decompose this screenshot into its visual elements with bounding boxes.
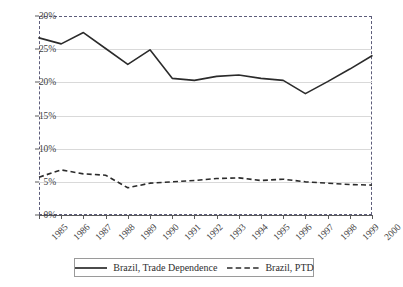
y-axis-tick-label: 5% — [44, 177, 56, 187]
x-axis-tick-mark — [128, 215, 129, 219]
y-axis-tick-mark — [35, 49, 39, 50]
legend-dashed-line-icon — [226, 264, 260, 272]
legend-entry-trade-dependence: Brazil, Trade Dependence — [74, 262, 217, 273]
x-axis-tick-mark — [350, 215, 351, 219]
x-axis-tick-label: 1991 — [183, 222, 203, 242]
x-axis-tick-mark — [150, 215, 151, 219]
y-axis-tick-label: 20% — [39, 77, 56, 87]
x-axis-tick-label: 1989 — [138, 222, 158, 242]
chart-legend: Brazil, Trade Dependence Brazil, PTD — [74, 258, 314, 277]
x-axis-tick-label: 1999 — [360, 222, 380, 242]
x-axis-tick-mark — [83, 215, 84, 219]
x-axis-tick-label: 1998 — [338, 222, 358, 242]
x-axis-tick-label: 1994 — [249, 222, 269, 242]
x-axis-tick-mark — [172, 215, 173, 219]
y-axis-tick-label: 10% — [39, 144, 56, 154]
gridline — [39, 116, 372, 117]
x-axis-tick-mark — [372, 215, 373, 219]
gridline — [39, 149, 372, 150]
x-axis-tick-mark — [61, 215, 62, 219]
x-axis-tick-label: 1995 — [271, 222, 291, 242]
y-axis-tick-mark — [35, 115, 39, 116]
gridline — [39, 182, 372, 183]
x-axis-tick-mark — [305, 215, 306, 219]
x-axis-tick-label: 1993 — [227, 222, 247, 242]
x-axis-line — [39, 215, 372, 216]
x-axis-tick-mark — [217, 215, 218, 219]
legend-label-ptd: Brazil, PTD — [265, 262, 313, 273]
y-axis-tick-mark — [35, 82, 39, 83]
x-axis-tick-mark — [261, 215, 262, 219]
x-axis-tick-label: 1987 — [94, 222, 114, 242]
x-axis-tick-mark — [194, 215, 195, 219]
x-axis-tick-label: 1990 — [160, 222, 180, 242]
x-axis-tick-label: 2000 — [382, 222, 402, 242]
y-axis-tick-mark — [35, 16, 39, 17]
y-axis-tick-label: 30% — [39, 11, 56, 21]
legend-solid-line-icon — [74, 264, 108, 272]
x-axis-tick-mark — [106, 215, 107, 219]
x-axis-tick-mark — [39, 215, 40, 219]
y-axis-tick-mark — [35, 148, 39, 149]
x-axis-tick-mark — [328, 215, 329, 219]
x-axis-tick-label: 1996 — [294, 222, 314, 242]
y-axis-tick-label: 25% — [39, 44, 56, 54]
y-axis-tick-label: 15% — [39, 111, 56, 121]
x-axis-tick-label: 1985 — [49, 222, 69, 242]
x-axis-tick-label: 1986 — [72, 222, 92, 242]
x-axis-tick-label: 1997 — [316, 222, 336, 242]
x-axis-tick-mark — [239, 215, 240, 219]
gridline — [39, 82, 372, 83]
x-axis-tick-label: 1988 — [116, 222, 136, 242]
legend-label-trade-dependence: Brazil, Trade Dependence — [113, 262, 217, 273]
x-axis-tick-label: 1992 — [205, 222, 225, 242]
x-axis-tick-mark — [283, 215, 284, 219]
y-axis-tick-label: 0% — [44, 210, 56, 220]
y-axis-tick-mark — [35, 181, 39, 182]
legend-entry-ptd: Brazil, PTD — [226, 262, 313, 273]
gridline — [39, 49, 372, 50]
